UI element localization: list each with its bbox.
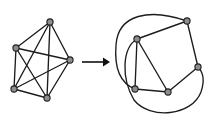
left-graph-edges (14, 22, 70, 98)
vertex-c (195, 64, 201, 70)
vertex-d (11, 86, 17, 92)
planarity-figure (0, 0, 210, 124)
vertex-d (132, 86, 138, 92)
edge-a-e (47, 22, 50, 98)
vertex-b (13, 45, 19, 51)
right-graph-edges (116, 15, 203, 113)
edge-b-e (137, 39, 168, 92)
edge-b-d (135, 39, 137, 89)
edge-a-b (16, 22, 50, 48)
arrow-head-icon (103, 58, 110, 67)
vertex-a (47, 19, 53, 25)
edge-a-c (50, 22, 70, 60)
left-graph (11, 19, 73, 101)
figure-canvas (0, 0, 210, 124)
vertex-a (184, 18, 190, 24)
edge-a-c (187, 21, 198, 67)
transform-arrow (82, 58, 110, 67)
edge-d-e (135, 89, 168, 92)
edge-a-b (137, 21, 187, 39)
edge-b-d (14, 48, 16, 89)
vertex-e (44, 95, 50, 101)
vertex-b (134, 36, 140, 42)
edge-c-e (168, 67, 198, 92)
right-graph (116, 15, 203, 113)
edge-b-c (16, 48, 70, 60)
vertex-c (67, 57, 73, 63)
vertex-e (165, 89, 171, 95)
right-graph-vertices (132, 18, 201, 95)
